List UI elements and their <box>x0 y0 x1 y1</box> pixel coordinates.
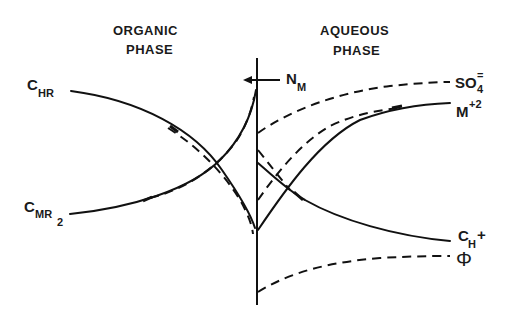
c-mr2-sub2: 2 <box>57 216 63 228</box>
c-h-sup: + <box>477 226 486 243</box>
c-mr2-arrow-mark <box>143 197 152 201</box>
organic-title-line1: ORGANIC <box>113 23 178 38</box>
curve-c-h-dashed <box>258 150 290 190</box>
curve-phi-dashed <box>258 256 450 292</box>
c-hr-main: C <box>27 76 38 93</box>
flux-arrow: N M <box>243 70 306 93</box>
label-m2: M +2 <box>456 98 482 120</box>
curve-c-hr-solid <box>71 91 255 228</box>
flux-label: N <box>286 70 297 87</box>
m2-arrow-mark <box>392 106 402 108</box>
c-mr2-main: C <box>24 198 35 215</box>
aqueous-title-line2: PHASE <box>333 43 380 58</box>
arrow-left-icon <box>243 76 252 84</box>
c-mr2-sub: MR <box>35 208 52 220</box>
curve-so4-dashed <box>258 82 450 133</box>
m2-sup: +2 <box>469 98 482 110</box>
aqueous-title-line1: AQUEOUS <box>320 23 389 38</box>
label-phi: Φ <box>456 248 472 270</box>
flux-label-sub: M <box>297 81 306 93</box>
curve-c-hr-dashed <box>168 128 253 234</box>
label-so4: SO 4 = <box>455 69 484 95</box>
c-hr-sub: HR <box>38 87 54 99</box>
phi-symbol: Φ <box>456 248 472 270</box>
organic-phase-title: ORGANIC PHASE <box>113 23 178 57</box>
curve-m2-solid <box>258 103 450 230</box>
label-c-h: C H + <box>458 226 486 250</box>
curve-c-h-solid <box>258 163 450 241</box>
so4-main: SO <box>455 74 477 91</box>
curve-m2-dashed <box>258 108 400 200</box>
c-h-arrow-mark <box>294 192 303 200</box>
label-c-hr: C HR <box>27 76 54 99</box>
concentration-profile-diagram: ORGANIC PHASE AQUEOUS PHASE N M C HR C M… <box>0 0 510 332</box>
so4-sub: 4 <box>477 83 484 95</box>
m2-main: M <box>456 103 469 120</box>
organic-title-line2: PHASE <box>126 42 173 57</box>
label-c-mr2: C MR 2 <box>24 198 63 228</box>
aqueous-phase-title: AQUEOUS PHASE <box>320 23 389 58</box>
so4-sup: = <box>477 69 483 81</box>
